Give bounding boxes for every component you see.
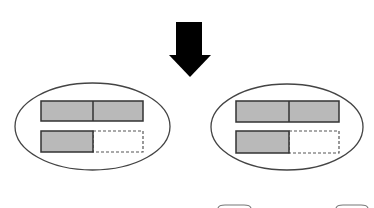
down-arrow-icon: [169, 22, 211, 77]
cutoff-shape-1: [218, 205, 251, 208]
right-ellipse: [211, 84, 363, 170]
bottom-cutoff-shapes: [218, 205, 368, 208]
left-ellipse: [15, 83, 170, 170]
left-full-bar: [41, 101, 143, 121]
right-group: [211, 84, 363, 170]
left-group: [15, 83, 170, 170]
right-full-bar: [236, 101, 339, 122]
right-partial-bar: [236, 131, 339, 153]
cutoff-shape-2: [336, 205, 368, 208]
diagram-canvas: [0, 0, 374, 208]
left-partial-bar: [41, 131, 143, 152]
